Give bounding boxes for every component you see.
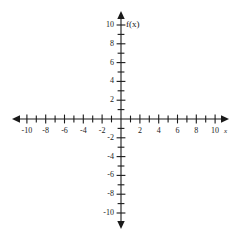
x-tick-label-2: 2 bbox=[138, 127, 142, 135]
x-tick-label-10: 10 bbox=[211, 127, 219, 135]
coordinate-plane-figure: -10 -8 -6 -4 -2 2 4 6 8 10 10 8 6 4 2 -2… bbox=[0, 0, 238, 239]
y-tick-label--6: -6 bbox=[107, 171, 114, 179]
x-tick-label--8: -8 bbox=[42, 127, 49, 135]
axes-and-ticks-svg bbox=[0, 0, 238, 239]
y-tick-label-6: 6 bbox=[110, 59, 114, 67]
y-tick-label-4: 4 bbox=[110, 77, 114, 85]
x-axis-right-arrow-icon bbox=[221, 115, 229, 122]
y-tick-label-10: 10 bbox=[106, 21, 114, 29]
x-tick-label-8: 8 bbox=[194, 127, 198, 135]
y-tick-label-8: 8 bbox=[110, 40, 114, 48]
y-tick-label-2: 2 bbox=[110, 96, 114, 104]
x-tick-label-6: 6 bbox=[176, 127, 180, 135]
x-tick-label-4: 4 bbox=[157, 127, 161, 135]
y-axis-label: f(x) bbox=[126, 20, 140, 29]
y-tick-label--4: -4 bbox=[107, 153, 114, 161]
x-tick-label--4: -4 bbox=[80, 127, 87, 135]
x-tick-label--6: -6 bbox=[61, 127, 68, 135]
x-axis-left-arrow-icon bbox=[12, 115, 20, 122]
y-tick-label--8: -8 bbox=[107, 190, 114, 198]
x-tick-label--2: -2 bbox=[99, 127, 106, 135]
x-tick-label--10: -10 bbox=[22, 127, 33, 135]
y-axis-down-arrow-icon bbox=[117, 221, 124, 229]
x-axis-label: x bbox=[224, 128, 227, 135]
y-tick-label--10: -10 bbox=[103, 209, 114, 217]
y-axis-up-arrow-icon bbox=[117, 11, 124, 19]
y-tick-label--2: -2 bbox=[107, 134, 114, 142]
